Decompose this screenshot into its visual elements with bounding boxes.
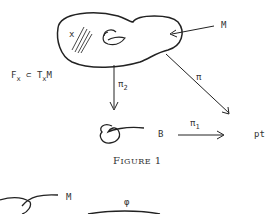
next-figure-arc (88, 211, 160, 214)
base-curve (100, 125, 144, 143)
figure-1-diagram (0, 0, 277, 214)
pi-label: π (196, 73, 201, 82)
next-map-label: φ (124, 198, 129, 207)
pi2-label: π2 (118, 80, 128, 89)
next-figure-curve-1 (0, 198, 31, 214)
figure-caption: FIGURE 1 (113, 155, 162, 166)
next-figure-curve-2 (22, 195, 58, 206)
point-label: x (69, 30, 74, 39)
point-space-label: pt (254, 130, 265, 139)
fiber-hatching (72, 27, 92, 53)
arrow-pi (166, 54, 229, 113)
handle-hole (103, 32, 125, 45)
base-label: B (158, 130, 163, 139)
manifold-label: M (221, 21, 226, 30)
fiber-relation: Fx ⊂ TxM (11, 71, 52, 80)
next-manifold-label: M (66, 193, 71, 202)
pi1-label: π1 (190, 119, 200, 128)
manifold-blob (58, 13, 183, 67)
arrow-M (172, 26, 214, 34)
